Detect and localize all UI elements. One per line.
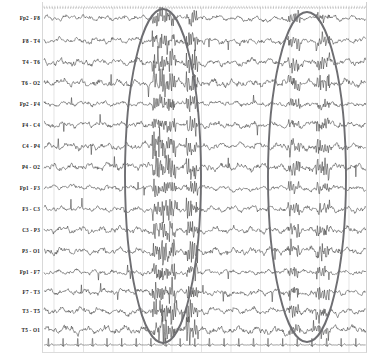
eeg-trace-fp1f7 xyxy=(44,263,366,281)
channel-label-p3o1: P3 - O1 xyxy=(2,248,40,254)
channel-label-f4c4: F4 - C4 xyxy=(2,122,40,128)
eeg-trace-fp2f4 xyxy=(44,94,366,112)
channel-label-fp1f3: Fp1 - F3 xyxy=(2,185,40,191)
eeg-trace-p4o2 xyxy=(44,151,366,181)
channel-label-fp1f7: Fp1 - F7 xyxy=(2,269,40,275)
channel-label-p4o2: P4 - O2 xyxy=(2,164,40,170)
channel-label-fp2f4: Fp2 - F4 xyxy=(2,101,40,107)
channel-label-fp2f8: Fp2 - F8 xyxy=(2,15,40,21)
channel-label-f3c3: F3 - C3 xyxy=(2,206,40,212)
channel-label-t5o1: T5 - O1 xyxy=(2,327,40,333)
eeg-trace-t6o2 xyxy=(44,64,366,97)
eeg-trace-f8t4 xyxy=(44,31,366,55)
eeg-trace-f4c4 xyxy=(44,114,366,136)
channel-label-f8t4: F8 - T4 xyxy=(2,38,40,44)
channel-label-c4p4: C4 - P4 xyxy=(2,143,40,149)
eeg-trace-fp1f3 xyxy=(44,179,366,197)
eeg-trace-c3p3 xyxy=(44,221,366,242)
eeg-figure: Fp2 - F8F8 - T4T4 - T6T6 - O2Fp2 - F4F4 … xyxy=(0,0,369,355)
eeg-trace-f3c3 xyxy=(44,198,366,223)
channel-label-t4t6: T4 - T6 xyxy=(2,59,40,65)
channel-label-t3t5: T3 - T5 xyxy=(2,308,40,314)
channel-label-t6o2: T6 - O2 xyxy=(2,80,40,86)
eeg-trace-f7t3 xyxy=(44,277,366,304)
channel-label-c3p3: C3 - P3 xyxy=(2,227,40,233)
ellipse-left[interactable] xyxy=(125,9,201,343)
channel-label-f7t3: F7 - T3 xyxy=(2,289,40,295)
eeg-plot-canvas xyxy=(0,0,369,355)
eeg-trace-c4p4 xyxy=(44,128,366,159)
ecg-trace xyxy=(44,338,366,347)
eeg-trace-p3o1 xyxy=(44,239,366,265)
eeg-trace-t3t5 xyxy=(44,299,366,325)
eeg-trace-t4t6 xyxy=(44,46,366,73)
